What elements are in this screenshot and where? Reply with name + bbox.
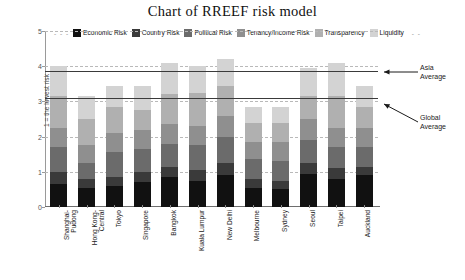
x-label-tokyo: Tokyo xyxy=(115,210,122,274)
chart-title: Chart of RREEF risk model xyxy=(0,3,465,20)
bar-segment-political-risk xyxy=(217,137,234,163)
bar-segment-transparency xyxy=(272,123,289,142)
x-label-hong-kong-central: Hong Kong-Central xyxy=(91,210,106,274)
y-tick-label-2: 2 xyxy=(28,133,42,140)
bar-segment-liquidity xyxy=(328,63,345,96)
bar-shanghai-pudong[interactable] xyxy=(50,66,67,207)
bar-segment-transparency xyxy=(217,86,234,116)
bar-segment-political-risk xyxy=(245,159,262,178)
bar-taipei[interactable] xyxy=(328,63,345,207)
legend-label-liquidity: Liquidity xyxy=(380,29,404,37)
bar-segment-economic-risk xyxy=(161,177,178,207)
y-tick-label-0: 0 xyxy=(28,204,42,211)
legend-dash-right-decoration: - - xyxy=(412,30,421,37)
bar-segment-economic-risk xyxy=(356,175,373,207)
bar-segment-country-risk xyxy=(78,179,95,188)
bar-segment-tenancy-income-risk xyxy=(356,128,373,147)
bar-segment-tenancy-income-risk xyxy=(272,142,289,161)
bar-seoul[interactable] xyxy=(300,68,317,207)
bar-segment-political-risk xyxy=(106,152,123,177)
bar-segment-transparency xyxy=(134,110,151,129)
bar-segment-political-risk xyxy=(134,149,151,172)
x-tick-mark-2 xyxy=(114,205,115,208)
bar-segment-tenancy-income-risk xyxy=(106,133,123,152)
bar-segment-tenancy-income-risk xyxy=(189,126,206,145)
bar-segment-political-risk xyxy=(300,140,317,163)
x-tick-mark-7 xyxy=(253,205,254,208)
bar-kuala-lumpur[interactable] xyxy=(189,66,206,207)
bar-segment-liquidity xyxy=(106,86,123,107)
bar-segment-country-risk xyxy=(161,167,178,178)
bar-segment-economic-risk xyxy=(328,179,345,207)
bar-segment-country-risk xyxy=(50,172,67,184)
y-tick-label-4: 4 xyxy=(28,63,42,70)
bars-group xyxy=(45,31,378,207)
bar-hong-kong-central[interactable] xyxy=(78,96,95,207)
bar-segment-tenancy-income-risk xyxy=(161,124,178,143)
bar-segment-political-risk xyxy=(161,144,178,167)
bar-segment-transparency xyxy=(328,96,345,128)
annotation-label-asia-average: AsiaAverage xyxy=(420,63,446,81)
bar-segment-political-risk xyxy=(78,163,95,179)
bar-segment-liquidity xyxy=(161,63,178,95)
bar-segment-tenancy-income-risk xyxy=(78,145,95,163)
bar-segment-economic-risk xyxy=(189,181,206,207)
y-tick-mark-3 xyxy=(42,101,45,102)
reference-line-asia-average xyxy=(45,71,378,72)
bar-sydney[interactable] xyxy=(272,107,289,207)
bar-new-delhi[interactable] xyxy=(217,59,234,207)
bar-segment-political-risk xyxy=(189,145,206,170)
bar-segment-tenancy-income-risk xyxy=(134,130,151,149)
y-tick-mark-2 xyxy=(42,137,45,138)
x-label-shanghai-pudong: Shanghai-Pudong xyxy=(63,210,78,274)
y-tick-mark-5 xyxy=(42,31,45,32)
x-label-sydney: Sydney xyxy=(281,210,288,274)
x-tick-mark-8 xyxy=(281,205,282,208)
bar-segment-economic-risk xyxy=(50,184,67,207)
x-label-auckland: Auckland xyxy=(364,210,371,274)
bar-segment-transparency xyxy=(50,96,67,128)
y-tick-label-1: 1 xyxy=(28,168,42,175)
x-tick-mark-0 xyxy=(59,205,60,208)
bar-segment-transparency xyxy=(78,119,95,145)
bar-segment-economic-risk xyxy=(217,175,234,207)
reference-line-global-average xyxy=(45,98,378,99)
bar-segment-country-risk xyxy=(245,179,262,188)
bar-segment-country-risk xyxy=(356,167,373,176)
annotation-label-global-average: GlobalAverage xyxy=(420,113,446,131)
y-tick-label-3: 3 xyxy=(28,98,42,105)
bar-tokyo[interactable] xyxy=(106,86,123,207)
bar-segment-economic-risk xyxy=(300,174,317,207)
bar-segment-liquidity xyxy=(356,86,373,107)
bar-auckland[interactable] xyxy=(356,86,373,207)
bar-segment-tenancy-income-risk xyxy=(217,116,234,137)
bar-melbourne[interactable] xyxy=(245,107,262,207)
bar-segment-economic-risk xyxy=(106,186,123,207)
bar-segment-country-risk xyxy=(106,177,123,186)
x-label-singapore: Singapore xyxy=(142,210,149,274)
y-tick-mark-1 xyxy=(42,172,45,173)
bar-bangkok[interactable] xyxy=(161,63,178,207)
x-tick-mark-5 xyxy=(198,205,199,208)
x-axis-tick-labels: Shanghai-PudongHong Kong-CentralTokyoSin… xyxy=(45,208,380,280)
x-label-kuala-lumpur: Kuala Lumpur xyxy=(198,210,205,274)
bar-segment-liquidity xyxy=(78,96,95,119)
bar-segment-economic-risk xyxy=(134,182,151,207)
bar-segment-transparency xyxy=(300,96,317,119)
x-tick-mark-1 xyxy=(87,205,88,208)
bar-segment-tenancy-income-risk xyxy=(300,119,317,140)
bar-segment-transparency xyxy=(245,123,262,142)
y-tick-label-5: 5 xyxy=(28,28,42,35)
x-label-bangkok: Bangkok xyxy=(170,210,177,274)
bar-segment-tenancy-income-risk xyxy=(328,128,345,147)
bar-segment-country-risk xyxy=(300,163,317,174)
bar-segment-political-risk xyxy=(328,147,345,168)
x-tick-mark-10 xyxy=(336,205,337,208)
bar-segment-liquidity xyxy=(272,107,289,123)
x-label-taipei: Taipei xyxy=(337,210,344,274)
x-tick-mark-3 xyxy=(142,205,143,208)
bar-singapore[interactable] xyxy=(134,86,151,207)
plot-area: 1 = the lowest risk xyxy=(45,31,378,207)
bar-segment-political-risk xyxy=(272,161,289,180)
bar-segment-tenancy-income-risk xyxy=(50,128,67,147)
